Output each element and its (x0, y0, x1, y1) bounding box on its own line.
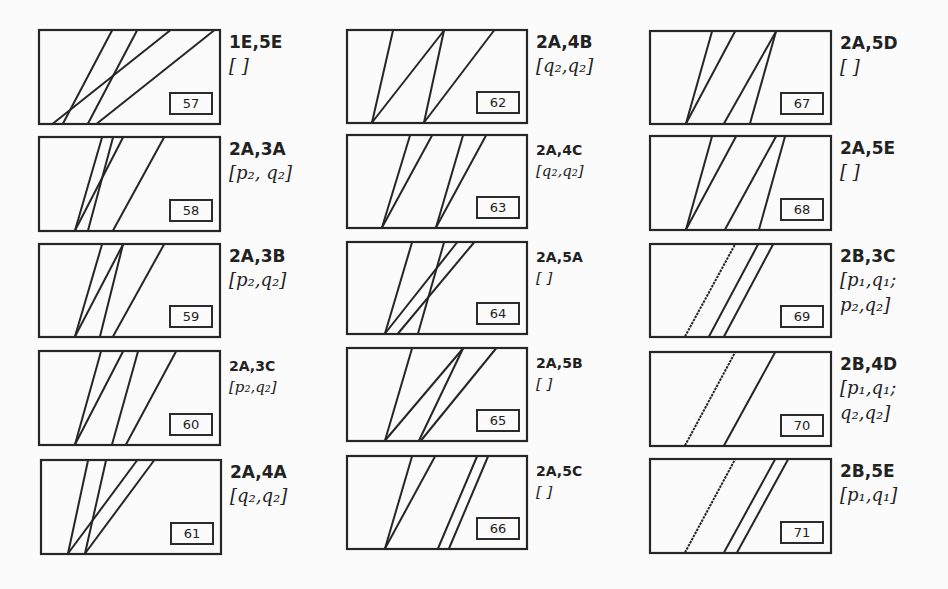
panel-number-label: 64 (476, 302, 520, 325)
diagram-panel: 58 (38, 136, 221, 232)
panel-caption: 2A,5E[ ] (840, 137, 895, 184)
panel-caption: 2B,5E[p₁,q₁] (840, 460, 897, 507)
panel-number-label: 57 (169, 92, 213, 115)
diagram-panel: 62 (346, 29, 528, 124)
panel-code: 2A,5A (536, 247, 583, 267)
panel-code: 2A,3C (229, 356, 277, 376)
panel-state: [ ] (840, 159, 895, 184)
panel-number-label: 59 (169, 305, 213, 328)
panel-state: [q₂,q₂] (230, 483, 287, 508)
panel-caption: 2A,3A[p₂, q₂] (229, 138, 292, 185)
panel-caption: 2A,3C[p₂,q₂] (229, 356, 277, 398)
panel-state: [p₂,q₂] (229, 376, 277, 398)
panel-code: 2A,3A (229, 138, 292, 160)
panel-number-label: 70 (780, 414, 824, 437)
panel-code: 2A,4C (536, 140, 584, 160)
panel-caption: 1E,5E[ ] (229, 31, 282, 78)
panel-state: [q₂,q₂] (536, 160, 584, 182)
panel-code: 2A,4A (230, 461, 287, 483)
panel-code: 2A,5C (536, 461, 582, 481)
panel-caption: 2B,3C[p₁,q₁; p₂,q₂] (840, 245, 896, 317)
panel-number-label: 63 (476, 196, 520, 219)
panel-number-label: 61 (170, 522, 214, 545)
panel-number-label: 66 (476, 517, 520, 540)
panel-caption: 2A,4A[q₂,q₂] (230, 461, 287, 508)
panel-code: 2B,4D (840, 353, 897, 375)
panel-caption: 2A,4B[q₂,q₂] (536, 31, 593, 78)
panel-number-label: 62 (476, 91, 520, 114)
panel-state: [ ] (840, 54, 898, 79)
panel-state: [p₂,q₂] (229, 267, 286, 292)
panel-code: 2A,3B (229, 245, 286, 267)
panel-number-label: 68 (780, 198, 824, 221)
diagram-panel: 66 (346, 455, 528, 550)
diagram-panel: 63 (346, 134, 528, 229)
diagram-panel: 68 (649, 135, 832, 231)
panel-state: [p₁,q₁; p₂,q₂] (840, 267, 896, 317)
panel-caption: 2A,5A[ ] (536, 247, 583, 289)
panel-state: [ ] (536, 481, 582, 503)
diagram-panel: 65 (346, 347, 528, 442)
panel-code: 2A,5B (536, 353, 583, 373)
panel-state: [q₂,q₂] (536, 53, 593, 78)
panel-number-label: 71 (780, 521, 824, 544)
panel-state: [p₂, q₂] (229, 160, 292, 185)
panel-state: [ ] (536, 373, 583, 395)
panel-number-label: 67 (780, 92, 824, 115)
diagram-panel: 69 (649, 243, 832, 338)
diagram-panel: 60 (38, 350, 221, 446)
diagram-panel: 57 (38, 29, 221, 125)
panel-code: 2B,3C (840, 245, 896, 267)
panel-code: 2B,5E (840, 460, 897, 482)
panel-caption: 2A,3B[p₂,q₂] (229, 245, 286, 292)
diagram-panel: 59 (38, 243, 221, 338)
panel-number-label: 65 (476, 409, 520, 432)
panel-caption: 2A,5B[ ] (536, 353, 583, 395)
diagram-panel: 71 (649, 458, 832, 554)
panel-number-label: 69 (780, 305, 824, 328)
panel-code: 2A,5D (840, 32, 898, 54)
panel-caption: 2A,4C[q₂,q₂] (536, 140, 584, 182)
diagram-panel: 64 (346, 241, 528, 335)
panel-state: [p₁,q₁] (840, 482, 897, 507)
panel-caption: 2A,5C[ ] (536, 461, 582, 503)
panel-number-label: 60 (169, 413, 213, 436)
diagram-panel: 70 (649, 351, 832, 447)
panel-code: 2A,4B (536, 31, 593, 53)
diagram-panel: 67 (649, 30, 832, 125)
diagram-panel: 61 (40, 459, 222, 555)
panel-state: [ ] (536, 267, 583, 289)
panel-code: 2A,5E (840, 137, 895, 159)
panel-caption: 2A,5D[ ] (840, 32, 898, 79)
panel-state: [ ] (229, 53, 282, 78)
panel-code: 1E,5E (229, 31, 282, 53)
panel-state: [p₁,q₁; q₂,q₂] (840, 375, 897, 425)
panel-number-label: 58 (169, 199, 213, 222)
panel-caption: 2B,4D[p₁,q₁; q₂,q₂] (840, 353, 897, 425)
